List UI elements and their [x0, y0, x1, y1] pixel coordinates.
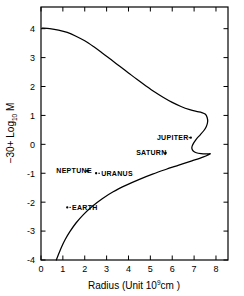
data-curve	[42, 28, 210, 260]
jupiter-data-point	[190, 137, 192, 139]
y-axis-label-text: −30+ Log10 M	[5, 103, 18, 164]
y-tick-label-8: 4	[30, 24, 35, 34]
x-axis-label-text: Radius (Unit 109cm )	[88, 279, 180, 291]
y-tick-label-0: -4	[27, 255, 35, 265]
xlabel-main: Radius (Unit 10	[88, 280, 157, 291]
xlabel-tail: cm )	[161, 280, 180, 291]
ylabel-main: −30+ Log	[5, 121, 16, 163]
x-tick-label-3: 3	[104, 264, 109, 274]
y-axis-tick-labels: -4-3-2-101234	[27, 24, 35, 265]
annotation-neptune: NEPTUNE	[56, 167, 92, 174]
annotation-earth: EARTH	[66, 204, 98, 211]
planet-annotations: JUPITERSATURNNEPTUNEURANUSEARTH	[56, 134, 192, 211]
x-tick-label-5: 5	[148, 264, 153, 274]
x-tick-label-2: 2	[82, 264, 87, 274]
y-tick-label-6: 2	[30, 82, 35, 92]
x-axis-label: Radius (Unit 109cm )	[88, 279, 180, 291]
uranus-label: URANUS	[101, 170, 133, 177]
uranus-data-point	[95, 172, 97, 174]
jupiter-label: JUPITER	[157, 134, 189, 141]
earth-data-point	[66, 206, 68, 208]
y-tick-label-5: 1	[30, 111, 35, 121]
axes-frame	[41, 7, 228, 260]
y-tick-label-4: 0	[30, 140, 35, 150]
saturn-label: SATURN	[136, 149, 166, 156]
y-tick-label-3: -1	[27, 169, 35, 179]
mass-radius-chart: 012345678 -4-3-2-101234 JUPITERSATURNNEP…	[0, 0, 244, 296]
ylabel-tail: M	[5, 103, 16, 114]
x-tick-label-7: 7	[192, 264, 197, 274]
x-axis-ticks	[41, 7, 216, 260]
mass-radius-curve	[42, 28, 210, 260]
x-axis-tick-labels: 012345678	[38, 264, 218, 274]
x-tick-label-8: 8	[213, 264, 218, 274]
annotation-jupiter: JUPITER	[157, 134, 192, 141]
plot-frame	[41, 7, 228, 260]
x-tick-label-0: 0	[38, 264, 43, 274]
earth-label: EARTH	[72, 204, 98, 211]
y-axis-label: −30+ Log10 M	[5, 103, 18, 164]
y-tick-label-1: -3	[27, 226, 35, 236]
x-tick-label-6: 6	[170, 264, 175, 274]
x-tick-label-4: 4	[126, 264, 131, 274]
y-axis-ticks	[41, 29, 228, 260]
annotation-uranus: URANUS	[95, 170, 133, 177]
y-tick-label-7: 3	[30, 53, 35, 63]
annotation-saturn: SATURN	[136, 149, 167, 156]
x-tick-label-1: 1	[60, 264, 65, 274]
y-tick-label-2: -2	[27, 198, 35, 208]
